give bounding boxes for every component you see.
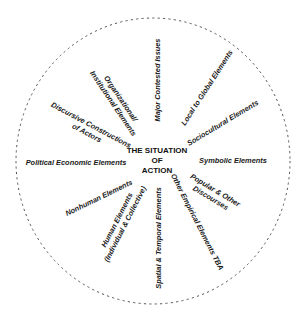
center-label: THE SITUATION OF ACTION bbox=[127, 146, 188, 175]
element-label: Symbolic Elements bbox=[199, 156, 267, 165]
element-spatial-temporal: Spatial & Temporal Elements bbox=[154, 187, 163, 289]
element-label: Spatial & Temporal Elements bbox=[154, 187, 163, 289]
center-line-1: THE SITUATION bbox=[127, 146, 188, 155]
situational-map-diagram: THE SITUATION OF ACTION Major Contested … bbox=[0, 0, 302, 314]
element-major-contested-issues: Major Contested Issues bbox=[153, 39, 162, 122]
element-political-economic: Political Economic Elements bbox=[26, 158, 127, 167]
element-label: Major Contested Issues bbox=[153, 39, 162, 122]
element-symbolic: Symbolic Elements bbox=[199, 156, 267, 165]
diagram-canvas: THE SITUATION OF ACTION Major Contested … bbox=[0, 0, 302, 314]
center-line-2: OF bbox=[151, 156, 162, 165]
element-label: Political Economic Elements bbox=[26, 158, 127, 167]
center-line-3: ACTION bbox=[142, 166, 173, 175]
